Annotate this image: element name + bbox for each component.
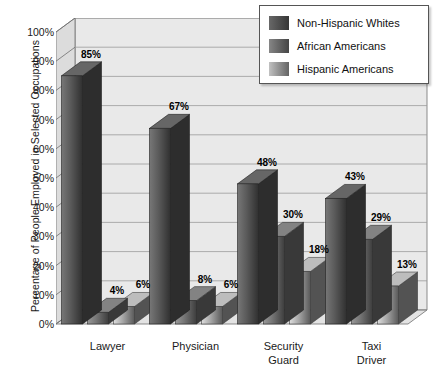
bar-value-label: 18% — [309, 244, 329, 255]
bar-value-label: 4% — [110, 285, 124, 296]
y-axis-tick-label: 90% — [20, 55, 54, 67]
x-axis-category-label: SecurityGuard — [239, 340, 329, 367]
y-axis-tick-label: 30% — [20, 230, 54, 242]
x-axis-category-labels: LawyerPhysicianSecurityGuardTaxiDriver — [56, 340, 437, 377]
y-axis-tick-label: 40% — [20, 201, 54, 213]
legend-swatch — [269, 62, 289, 76]
y-axis-tick-label: 70% — [20, 114, 54, 126]
bar-value-label: 30% — [283, 209, 303, 220]
legend: Non-Hispanic WhitesAfrican AmericansHisp… — [259, 5, 429, 84]
y-axis-tick-label: 0% — [20, 318, 54, 330]
x-axis-category-label: Lawyer — [63, 340, 153, 354]
bar-value-label: 8% — [198, 274, 212, 285]
legend-label: African Americans — [297, 40, 386, 52]
y-axis-tick-label: 20% — [20, 260, 54, 272]
legend-swatch — [269, 16, 289, 30]
bar-chart: Percentage of People Employed in Selecte… — [0, 0, 437, 377]
legend-item: Non-Hispanic Whites — [269, 11, 428, 34]
y-axis-tick-labels: 0%10%20%30%40%50%60%70%80%90%100% — [16, 0, 54, 377]
legend-item: Hispanic Americans — [269, 57, 428, 80]
legend-label: Hispanic Americans — [297, 63, 394, 75]
bar-value-label: 43% — [345, 171, 365, 182]
bar-value-label: 48% — [257, 157, 277, 168]
y-axis-tick-label: 10% — [20, 289, 54, 301]
bar-value-label: 85% — [81, 49, 101, 60]
y-axis-tick-label: 100% — [20, 26, 54, 38]
y-axis-tick-label: 60% — [20, 143, 54, 155]
bar-value-label: 67% — [169, 101, 189, 112]
bar-value-label: 13% — [397, 259, 417, 270]
y-axis-tick-label: 50% — [20, 172, 54, 184]
x-axis-category-label: TaxiDriver — [327, 340, 417, 367]
y-axis-tick-label: 80% — [20, 84, 54, 96]
bar-value-label: 6% — [136, 279, 150, 290]
x-axis-category-label: Physician — [151, 340, 241, 354]
legend-swatch — [269, 39, 289, 53]
bar-value-label: 6% — [224, 279, 238, 290]
legend-label: Non-Hispanic Whites — [297, 17, 400, 29]
bar-value-label: 29% — [371, 212, 391, 223]
legend-item: African Americans — [269, 34, 428, 57]
